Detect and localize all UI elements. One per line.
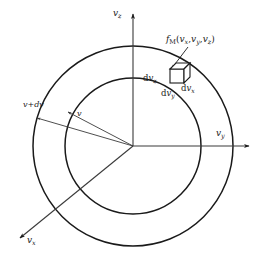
axis-vz-sub: z [118,12,121,20]
volume-label-dvy: dvy [161,89,175,99]
volume-element-cube [170,63,190,83]
axis-label-vy: vy [216,129,225,139]
distribution-function-label: fM(vx,vy,vz) [166,35,215,45]
radius-label-v: v [77,110,82,118]
axis-vx-sub: x [32,239,36,247]
fm-function-sub: M [169,38,176,46]
radius-vector-v-plus-dv [37,118,133,146]
figure-canvas: vz vy vx v+dv v fM(vx,vy,vz) dvz dvy dvx [0,0,261,255]
axis-vy-sub: y [221,132,225,140]
volume-label-dvz: dvz [143,74,157,84]
volume-label-dvx: dvx [181,84,195,94]
axis-label-vz: vz [113,9,122,19]
axis-label-vx: vx [27,236,36,246]
dvy-sub: y [171,92,174,99]
fm-close-paren: ) [211,34,215,44]
velocity-space-drawing [0,0,261,255]
dvx-sub: x [191,87,194,94]
axis-vx-line [20,146,133,238]
radius-label-v-plus-dv: v+dv [23,101,44,109]
dvz-sub: z [153,77,156,84]
